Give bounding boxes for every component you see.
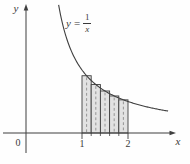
- x-axis-label: x: [175, 135, 181, 147]
- function-fraction: 1 x: [83, 13, 92, 34]
- tick-label-2: 2: [126, 138, 131, 149]
- fraction-denominator: x: [83, 23, 91, 34]
- figure-canvas: y x 0 1 2: [0, 0, 190, 164]
- riemann-midpoint-figure: y x 0 1 2 y = 1 x: [0, 0, 190, 164]
- fraction-numerator: 1: [83, 13, 92, 23]
- tick-label-1: 1: [80, 138, 85, 149]
- y-axis-label: y: [13, 2, 19, 14]
- y-axis-arrow-icon: [24, 4, 29, 11]
- function-lhs: y: [66, 18, 71, 29]
- function-equals: =: [74, 18, 80, 29]
- origin-label: 0: [16, 137, 21, 148]
- x-axis-ticks: [82, 133, 128, 139]
- function-equation-label: y = 1 x: [66, 13, 92, 34]
